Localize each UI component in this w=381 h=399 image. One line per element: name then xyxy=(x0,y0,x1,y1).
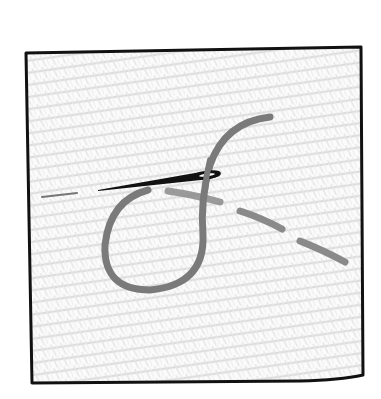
fabric-swatch xyxy=(26,47,363,383)
needle-thread-illustration xyxy=(0,0,381,399)
